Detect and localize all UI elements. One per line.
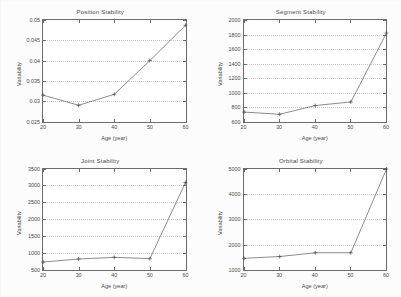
y-tick-label: 0.045 (27, 37, 41, 43)
y-tick-label: 2000 (229, 242, 241, 248)
x-tick-label: 30 (276, 124, 282, 130)
x-tick-label: 60 (383, 124, 389, 130)
y-tick-label: 2000 (229, 17, 241, 23)
x-tick-label: 50 (347, 124, 353, 130)
x-tick-label: 20 (40, 124, 46, 130)
y-tick-mark (183, 270, 186, 271)
x-tick-label: 40 (312, 272, 318, 278)
chart-panel-3: Orbital Stability Variability 1000200030… (201, 149, 401, 297)
y-tick-label: 2500 (28, 199, 40, 205)
x-tick-label: 60 (383, 272, 389, 278)
x-tick-label: 20 (241, 124, 247, 130)
x-tick-mark (186, 20, 187, 23)
x-tick-label: 40 (111, 272, 117, 278)
y-tick-mark (43, 270, 46, 271)
x-tick-mark (186, 267, 187, 270)
x-tick-mark (186, 169, 187, 172)
y-tick-label: 1200 (229, 75, 241, 81)
y-tick-label: 3000 (28, 182, 40, 188)
y-tick-label: 0.035 (27, 78, 41, 84)
x-tick-mark (386, 119, 387, 122)
chart-title: Segment Stability (201, 9, 401, 15)
plot-area: 100020003000400050002030405060 (243, 168, 388, 272)
x-axis-label: Age (year) (243, 135, 388, 141)
series-markers (43, 169, 186, 271)
x-tick-label: 50 (147, 124, 153, 130)
y-tick-label: 0.04 (30, 58, 41, 64)
plot-area: 0.0250.030.0350.040.0450.052030405060 (42, 19, 187, 123)
y-tick-label: 800 (232, 104, 241, 110)
y-tick-label: 4000 (229, 191, 241, 197)
series-markers (244, 20, 387, 122)
series-markers (43, 20, 186, 122)
chart-panel-2: Joint Stability Variability 500100015002… (0, 149, 201, 297)
y-tick-mark (183, 122, 186, 123)
y-tick-mark (383, 122, 386, 123)
series-markers (244, 169, 387, 271)
x-tick-mark (386, 20, 387, 23)
x-axis-label: Age (year) (42, 135, 187, 141)
x-tick-label: 40 (111, 124, 117, 130)
y-axis-label: Variability (216, 62, 222, 86)
chart-title: Orbital Stability (201, 158, 401, 164)
x-tick-label: 20 (40, 272, 46, 278)
y-tick-label: 3500 (28, 166, 40, 172)
x-tick-label: 60 (183, 272, 189, 278)
x-axis-label: Age (year) (243, 283, 388, 289)
y-axis-label: Variability (16, 211, 22, 235)
y-tick-label: 1000 (28, 250, 40, 256)
chart-panel-1: Segment Stability Variability 6008001000… (201, 0, 401, 149)
y-tick-mark (244, 122, 247, 123)
x-axis-label: Age (year) (42, 283, 187, 289)
chart-panel-0: Position Stability Variability 0.0250.03… (0, 0, 201, 149)
y-tick-label: 1000 (229, 267, 241, 273)
y-tick-label: 500 (31, 267, 40, 273)
y-tick-label: 1600 (229, 46, 241, 52)
y-tick-mark (383, 270, 386, 271)
plot-area: 5001000150020002500300035002030405060 (42, 168, 187, 272)
y-tick-mark (43, 122, 46, 123)
y-tick-label: 1400 (229, 61, 241, 67)
y-tick-label: 5000 (229, 166, 241, 172)
y-tick-mark (244, 270, 247, 271)
x-tick-label: 30 (276, 272, 282, 278)
y-tick-label: 0.03 (30, 98, 41, 104)
y-tick-label: 2000 (28, 216, 40, 222)
x-tick-mark (386, 267, 387, 270)
x-tick-label: 60 (183, 124, 189, 130)
chart-title: Joint Stability (0, 158, 201, 164)
y-tick-label: 1800 (229, 32, 241, 38)
x-tick-label: 30 (76, 272, 82, 278)
chart-title: Position Stability (0, 9, 201, 15)
figure-grid: Position Stability Variability 0.0250.03… (0, 0, 401, 297)
x-tick-mark (186, 119, 187, 122)
x-tick-label: 30 (76, 124, 82, 130)
plot-area: 6008001000120014001600180020002030405060 (243, 19, 388, 123)
y-tick-label: 1000 (229, 90, 241, 96)
y-tick-label: 0.025 (27, 119, 41, 125)
y-tick-label: 3000 (229, 216, 241, 222)
y-tick-label: 1500 (28, 233, 40, 239)
y-tick-label: 600 (232, 119, 241, 125)
x-tick-label: 20 (241, 272, 247, 278)
x-tick-label: 50 (147, 272, 153, 278)
y-axis-label: Variability (16, 62, 22, 86)
x-tick-label: 50 (347, 272, 353, 278)
y-axis-label: Variability (216, 211, 222, 235)
x-tick-label: 40 (312, 124, 318, 130)
y-tick-label: 0.05 (30, 17, 41, 23)
